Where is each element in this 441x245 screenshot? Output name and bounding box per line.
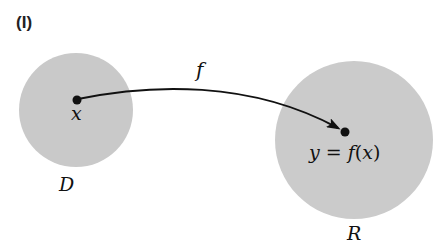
domain-point-label: x	[71, 104, 82, 123]
domain-set-label: D	[59, 175, 74, 194]
range-point	[341, 128, 350, 137]
mapping-label-f: f	[196, 60, 203, 80]
function-mapping-diagram	[0, 0, 441, 245]
range-circle	[275, 61, 433, 219]
range-set-label: R	[347, 224, 361, 243]
range-point-label: y = f(x)	[309, 143, 380, 162]
panel-label: (I)	[16, 14, 32, 31]
